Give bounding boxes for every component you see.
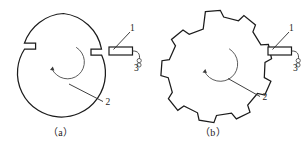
sensor-body-a	[109, 47, 133, 55]
label-1-b: 1	[289, 23, 294, 33]
label-1-a: 1	[130, 23, 135, 33]
lead-wire-b	[292, 51, 299, 59]
technical-diagram: 2 1 3 （a） 2	[0, 0, 304, 145]
caption-a: （a）	[48, 127, 73, 138]
panel-a: 2 1 3 （a）	[17, 14, 141, 139]
sensor-body-b	[268, 47, 292, 55]
label-2-b: 2	[263, 92, 268, 102]
gear-wheel-outline	[161, 10, 272, 122]
lead-wire-a	[133, 51, 140, 59]
slotted-disc-outline	[17, 14, 105, 118]
caption-b: （b）	[200, 127, 226, 138]
label-3-a: 3	[134, 63, 139, 73]
label-2-a: 2	[106, 97, 111, 107]
figure-container: 2 1 3 （a） 2	[0, 0, 304, 145]
label-3-b: 3	[293, 63, 298, 73]
panel-b: 2 1 3 （b）	[161, 10, 300, 138]
